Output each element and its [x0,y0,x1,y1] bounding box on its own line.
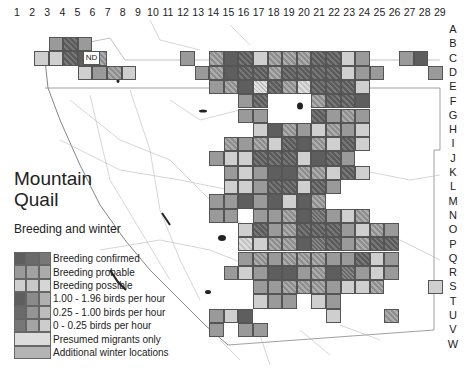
grid-cell-17E [253,80,268,94]
grid-cell-17P [253,237,268,251]
grid-cell-28C [414,51,429,65]
column-label: 1 [10,6,24,18]
grid-cell-17C [253,51,268,65]
column-label: 29 [433,6,447,18]
column-label: 10 [146,6,160,18]
grid-cell-18T [268,294,283,308]
column-label: 21 [312,6,326,18]
grid-cell-20N [297,209,312,223]
grid-cell-20M [297,194,312,208]
row-label: F [447,95,459,107]
grid-cell-24C [355,51,370,65]
legend-label: Additional winter locations [53,347,169,358]
grid-cell-16P [238,237,253,251]
row-label: D [447,66,459,78]
grid-cell-17S [253,280,268,294]
grid-cell-15J [224,151,239,165]
grid-cell-24O [355,223,370,237]
grid-cell-19C [282,51,297,65]
grid-cell-16R [238,266,253,280]
grid-cell-23F [341,94,356,108]
grid-cell-17H [253,123,268,137]
grid-cell-27C [399,51,414,65]
grid-cell-23N [341,209,356,223]
grid-cell-16M [238,194,253,208]
grid-cell-25S [370,280,385,294]
grid-cell-22K [326,166,341,180]
grid-cell-16G [238,109,253,123]
row-label: H [447,123,459,135]
legend-item: Breeding probable [14,265,169,278]
column-label: 7 [101,6,115,18]
grid-cell-26U [384,309,399,323]
grid-cell-22L [326,180,341,194]
grid-cell-17M [253,194,268,208]
legend-swatch [14,292,51,305]
grid-cell-18R [268,266,283,280]
column-label: 15 [221,6,235,18]
grid-cell-19E [282,80,297,94]
column-label: 3 [40,6,54,18]
grid-cell-14E [209,80,224,94]
grid-cell-19P [282,237,297,251]
grid-cell-18J [268,151,283,165]
grid-cell-20C [297,51,312,65]
grid-cell-17N [253,209,268,223]
grid-cell-18N [268,209,283,223]
column-label: 18 [267,6,281,18]
grid-cell-24E [355,80,370,94]
grid-cell-15K [224,166,239,180]
grid-cell-23E [341,80,356,94]
column-label: 4 [55,6,69,18]
legend-swatch [14,346,51,359]
grid-cell-16F [238,94,253,108]
grid-cell-19H [282,123,297,137]
grid-cell-22Q [326,252,341,266]
grid-cell-4C [63,51,78,65]
map-title: Mountain Quail [14,168,92,210]
grid-cell-15R [224,266,239,280]
grid-cell-22I [326,137,341,151]
grid-cell-14N [209,209,224,223]
grid-cell-21E [311,80,326,94]
column-label: 12 [176,6,190,18]
row-label: O [447,223,459,235]
grid-cell-17I [253,137,268,151]
grid-cell-16C [238,51,253,65]
grid-cell-4B [63,37,78,51]
grid-cell-22P [326,237,341,251]
grid-cell-20K [297,166,312,180]
grid-cell-15E [224,80,239,94]
grid-cell-22S [326,280,341,294]
grid-cell-18Q [268,252,283,266]
no-data-label: ND [83,51,100,65]
grid-cell-16K [238,166,253,180]
grid-cell-20J [297,151,312,165]
grid-cell-22C [326,51,341,65]
grid-cell-24H [355,123,370,137]
legend-item: Breeding confirmed [14,252,169,265]
grid-cell-21L [311,180,326,194]
grid-cell-18H [268,123,283,137]
grid-cell-18E [268,80,283,94]
grid-cell-14C [209,51,224,65]
legend-item: 0 - 0.25 birds per hour [14,319,169,332]
grid-cell-19I [282,137,297,151]
grid-cell-5B [78,37,93,51]
grid-cell-16I [238,137,253,151]
grid-cell-25O [370,223,385,237]
map-subtitle: Breeding and winter [14,222,121,236]
row-label: W [447,338,459,350]
grid-cell-15N [224,209,239,223]
title-line-2: Quail [14,189,92,210]
grid-cell-24G [355,109,370,123]
column-label: 23 [342,6,356,18]
legend-item: Breeding possible [14,279,169,292]
grid-cell-12C [180,51,195,65]
legend-label: 0 - 0.25 birds per hour [53,320,151,331]
grid-cell-21S [311,280,326,294]
grid-cell-15D [224,66,239,80]
legend-swatch [14,279,51,292]
grid-cell-17G [253,109,268,123]
column-label: 25 [372,6,386,18]
